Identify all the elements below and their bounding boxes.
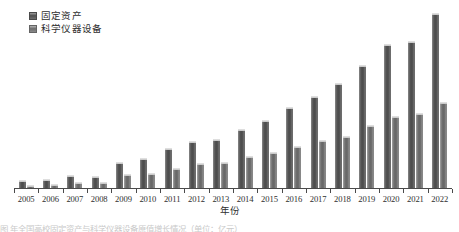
x-axis-tick	[330, 189, 331, 193]
bar-series-0[interactable]	[92, 176, 99, 188]
bar-group	[184, 4, 208, 188]
x-axis-tick	[379, 189, 380, 193]
bar-top-highlight	[416, 113, 423, 115]
bar-series-1[interactable]	[221, 162, 228, 188]
bar-top-highlight	[384, 44, 391, 46]
bar-series-0[interactable]	[262, 120, 269, 188]
figure-caption-text: 图 年全国高校固定资产与科学仪器设备原值增长情况（单位：亿元）	[0, 224, 459, 232]
bar-series-1[interactable]	[416, 113, 423, 188]
bar-top-highlight	[286, 107, 293, 109]
bar-series-1[interactable]	[246, 156, 253, 188]
bar-top-highlight	[408, 41, 415, 43]
x-axis-tick	[14, 189, 15, 193]
series-0-swatch-icon	[29, 12, 37, 20]
x-axis-ticks	[14, 189, 452, 193]
x-axis-ticklabels: 2005200620072008200920102011201220132014…	[14, 194, 452, 205]
x-axis-ticklabel: 2007	[63, 194, 87, 205]
bar-group	[136, 4, 160, 188]
bar-series-0[interactable]	[384, 44, 391, 188]
x-axis-ticklabel: 2009	[111, 194, 135, 205]
bar-series-1[interactable]	[124, 174, 131, 188]
bar-top-highlight	[221, 162, 228, 164]
bar-top-highlight	[148, 173, 155, 175]
x-axis-ticklabel: 2021	[403, 194, 427, 205]
x-axis-tick	[111, 189, 112, 193]
bar-series-0[interactable]	[140, 158, 147, 188]
x-axis-tick	[209, 189, 210, 193]
bar-top-highlight	[359, 65, 366, 67]
x-axis-ticklabel: 2008	[87, 194, 111, 205]
x-axis-tick	[160, 189, 161, 193]
bar-series-1[interactable]	[440, 102, 447, 188]
x-axis-tick	[403, 189, 404, 193]
bar-series-0[interactable]	[165, 148, 172, 188]
bar-series-1[interactable]	[392, 116, 399, 188]
x-axis-ticklabel: 2005	[14, 194, 38, 205]
bar-top-highlight	[440, 102, 447, 104]
legend-item-label: 科学仪器设备	[41, 24, 102, 34]
legend-item-series-1[interactable]: 科学仪器设备	[29, 23, 102, 35]
bar-top-highlight	[367, 125, 374, 127]
bar-top-highlight	[270, 152, 277, 154]
x-axis-ticklabel: 2016	[282, 194, 306, 205]
bar-series-0[interactable]	[67, 175, 74, 188]
bar-top-highlight	[335, 83, 342, 85]
bar-top-highlight	[197, 163, 204, 165]
bar-group	[428, 4, 452, 188]
bar-series-1[interactable]	[197, 163, 204, 188]
bar-top-highlight	[343, 136, 350, 138]
bar-top-highlight	[262, 120, 269, 122]
bar-series-1[interactable]	[148, 173, 155, 188]
bar-top-highlight	[19, 180, 26, 182]
bar-series-0[interactable]	[116, 162, 123, 188]
bar-series-1[interactable]	[270, 152, 277, 188]
legend-item-series-0[interactable]: 固定资产	[29, 10, 102, 22]
bar-top-highlight	[432, 13, 439, 15]
bar-group	[403, 4, 427, 188]
bar-series-0[interactable]	[43, 179, 50, 188]
bar-series-0[interactable]	[408, 41, 415, 188]
x-axis-tick	[38, 189, 39, 193]
bar-top-highlight	[319, 140, 326, 142]
bar-series-1[interactable]	[173, 168, 180, 188]
bar-top-highlight	[213, 139, 220, 141]
bar-series-0[interactable]	[286, 107, 293, 188]
bar-series-0[interactable]	[432, 13, 439, 188]
bar-group	[160, 4, 184, 188]
bar-series-0[interactable]	[19, 180, 26, 188]
bar-top-highlight	[294, 146, 301, 148]
bar-group	[209, 4, 233, 188]
bar-series-1[interactable]	[294, 146, 301, 188]
bar-series-0[interactable]	[238, 129, 245, 188]
x-axis-ticklabel: 2020	[379, 194, 403, 205]
bar-series-0[interactable]	[359, 65, 366, 188]
x-axis-tick	[63, 189, 64, 193]
bar-series-1[interactable]	[367, 125, 374, 188]
x-axis-tick	[452, 189, 453, 193]
bar-top-highlight	[238, 129, 245, 131]
x-axis-ticklabel: 2018	[330, 194, 354, 205]
bar-series-0[interactable]	[189, 141, 196, 188]
x-axis-tick	[257, 189, 258, 193]
x-axis-tick	[136, 189, 137, 193]
bar-top-highlight	[140, 158, 147, 160]
bar-series-1[interactable]	[343, 136, 350, 188]
bar-top-highlight	[92, 176, 99, 178]
x-axis-ticklabel: 2015	[257, 194, 281, 205]
bar-group	[379, 4, 403, 188]
bar-series-0[interactable]	[335, 83, 342, 188]
x-axis-ticklabel: 2013	[209, 194, 233, 205]
x-axis-tick	[282, 189, 283, 193]
bar-group	[111, 4, 135, 188]
x-axis-tick	[428, 189, 429, 193]
chart-legend: 固定资产 科学仪器设备	[29, 10, 102, 36]
figure-chart: 固定资产 科学仪器设备 2005200620072008200920102011…	[0, 0, 459, 232]
bar-series-1[interactable]	[319, 140, 326, 188]
x-axis-tick	[355, 189, 356, 193]
x-axis-ticklabel: 2011	[160, 194, 184, 205]
bar-series-0[interactable]	[213, 139, 220, 188]
x-axis-ticklabel: 2022	[428, 194, 452, 205]
bar-top-highlight	[116, 162, 123, 164]
bar-top-highlight	[392, 116, 399, 118]
bar-series-0[interactable]	[311, 96, 318, 188]
